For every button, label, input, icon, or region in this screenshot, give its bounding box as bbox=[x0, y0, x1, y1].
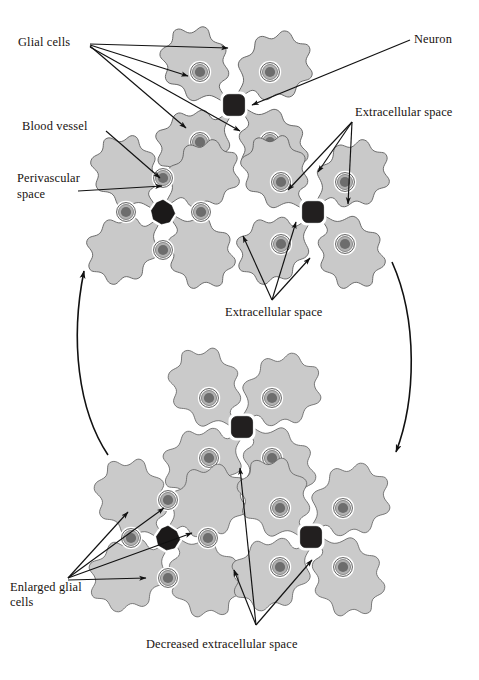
glial-nucleus bbox=[189, 61, 211, 83]
glial-nucleus bbox=[198, 387, 220, 409]
glial-nucleus bbox=[332, 556, 354, 578]
neuron-cell-body bbox=[298, 524, 325, 551]
label-perivascular-space-line2: space bbox=[17, 187, 46, 201]
label-enlarged-glial-cells-line2: cells bbox=[10, 595, 33, 609]
glial-nucleus bbox=[157, 567, 179, 589]
label-glial-cells: Glial cells bbox=[18, 35, 70, 49]
neuron-cell-body bbox=[300, 199, 327, 226]
label-extracellular-space-center: Extracellular space bbox=[225, 305, 323, 319]
neuron-cell-body bbox=[229, 414, 256, 441]
glial-nucleus bbox=[259, 61, 281, 83]
glial-nucleus bbox=[190, 201, 212, 223]
glial-nucleus bbox=[269, 556, 291, 578]
label-blood-vessel: Blood vessel bbox=[22, 119, 88, 133]
glial-nucleus bbox=[115, 201, 137, 223]
neuron-cell-body bbox=[221, 92, 248, 119]
glial-nucleus bbox=[269, 497, 291, 519]
label-neuron: Neuron bbox=[414, 32, 452, 46]
glial-nucleus bbox=[197, 527, 219, 549]
glial-cell-diagram: Glial cells Neuron Blood vessel Perivasc… bbox=[0, 0, 479, 680]
glial-nucleus bbox=[157, 489, 179, 511]
glial-nucleus bbox=[261, 387, 283, 409]
label-enlarged-glial-cells-line1: Enlarged glial bbox=[10, 580, 82, 594]
glial-nucleus bbox=[152, 239, 174, 261]
glial-nucleus bbox=[334, 233, 356, 255]
figure-canvas: Glial cells Neuron Blood vessel Perivasc… bbox=[0, 0, 479, 680]
glial-nucleus bbox=[334, 171, 356, 193]
label-perivascular-space-line1: Perivascular bbox=[17, 171, 81, 185]
glial-nucleus bbox=[332, 497, 354, 519]
label-decreased-extracellular-space: Decreased extracellular space bbox=[146, 637, 298, 651]
label-extracellular-space-right: Extracellular space bbox=[355, 105, 453, 119]
